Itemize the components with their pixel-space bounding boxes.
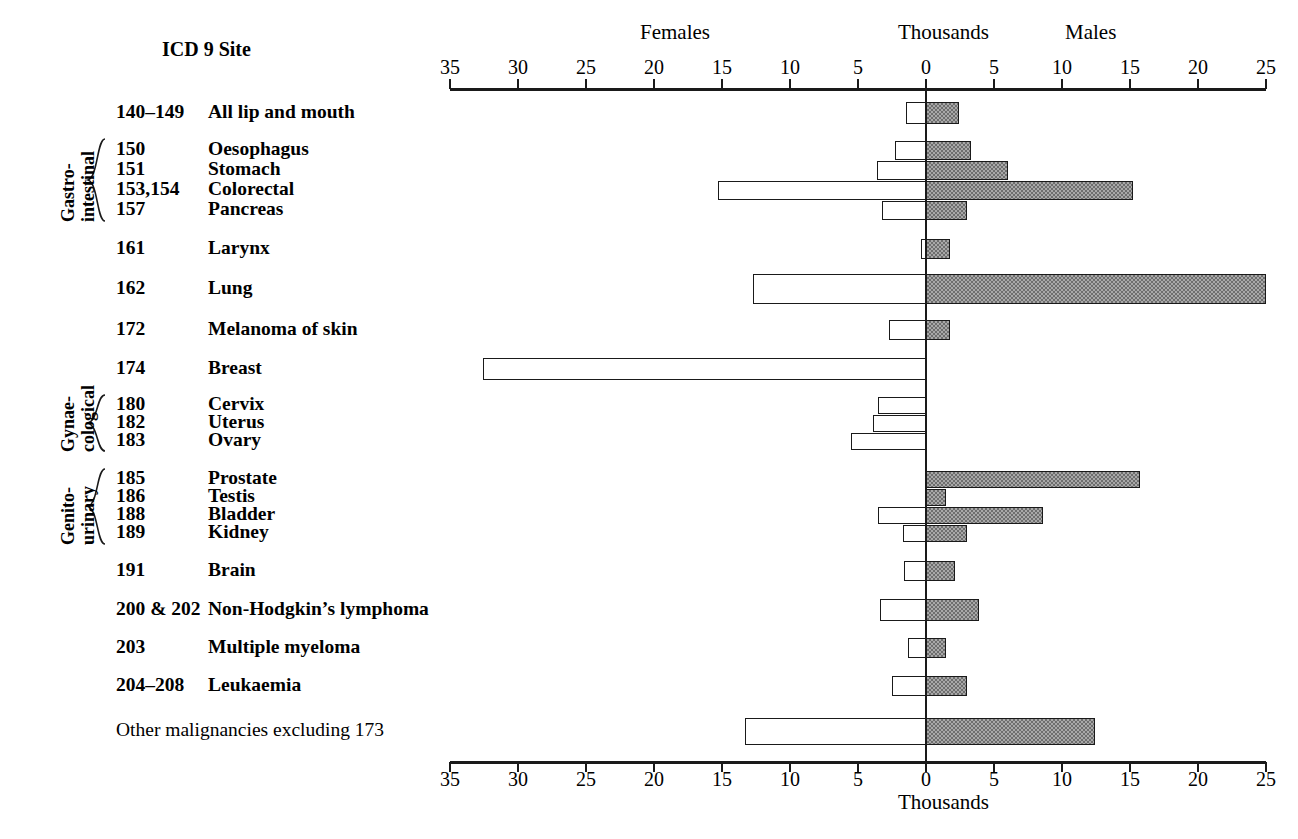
row-label: 189Kidney [116, 521, 269, 543]
axis-tick-label: 25 [1246, 768, 1286, 791]
row-icd-code: 172 [116, 318, 208, 340]
row-site-name: All lip and mouth [208, 101, 355, 122]
bar-female [745, 718, 926, 745]
bar-male [926, 102, 959, 124]
bar-male [926, 718, 1095, 745]
bar-male [926, 239, 950, 259]
bar-male [926, 471, 1140, 488]
row-icd-code: 191 [116, 559, 208, 581]
bar-female [904, 561, 926, 581]
axis-tick-label: 20 [634, 56, 674, 79]
axis-tick-label: 20 [1178, 768, 1218, 791]
row-label: 203Multiple myeloma [116, 636, 360, 658]
axis-tick-label: 20 [634, 768, 674, 791]
row-label: 162Lung [116, 277, 252, 299]
axis-tick-label: 35 [430, 768, 470, 791]
row-icd-code: 150 [116, 138, 208, 160]
row-icd-code: 174 [116, 357, 208, 379]
bar-male [926, 561, 955, 581]
row-icd-code: 183 [116, 429, 208, 451]
row-icd-code: 200 & 202 [116, 598, 208, 620]
zero-axis-line [925, 88, 927, 761]
row-site-name: Colorectal [208, 178, 294, 199]
axis-tick-label: 25 [566, 56, 606, 79]
row-label: 174Breast [116, 357, 262, 379]
bar-male [926, 507, 1043, 524]
row-site-name: Stomach [208, 158, 281, 179]
row-icd-code: 153,154 [116, 178, 208, 200]
bar-female [878, 397, 926, 414]
row-icd-code: 162 [116, 277, 208, 299]
bar-female [718, 181, 926, 200]
row-site-name: Ovary [208, 429, 261, 450]
row-label: 183Ovary [116, 429, 261, 451]
axis-tick-label: 35 [430, 56, 470, 79]
bar-male [926, 274, 1266, 304]
row-icd-code: 157 [116, 198, 208, 220]
axis-tick-label: 10 [1042, 768, 1082, 791]
bar-female [873, 415, 926, 432]
row-site-name: Larynx [208, 237, 270, 258]
axis-tick-label: 25 [566, 768, 606, 791]
axis-tick [585, 79, 587, 89]
group-caption-line1: Genito- [58, 487, 79, 545]
bar-female [483, 358, 926, 380]
axis-tick [1265, 79, 1267, 89]
axis-tick [993, 79, 995, 89]
row-site-name: Brain [208, 559, 256, 580]
axis-tick-label: 15 [1110, 56, 1150, 79]
axis-tick-label: 15 [702, 56, 742, 79]
axis-tick-label: 0 [906, 56, 946, 79]
bar-male [926, 599, 979, 621]
axis-tick-label: 10 [770, 56, 810, 79]
row-site-name: Multiple myeloma [208, 636, 360, 657]
row-label: 151Stomach [116, 158, 281, 180]
row-site-name: Leukaemia [208, 674, 301, 695]
row-icd-code: 161 [116, 237, 208, 259]
bar-male [926, 181, 1133, 200]
group-caption-line1: Gynae- [58, 396, 79, 452]
axis-tick-label: 5 [974, 56, 1014, 79]
axis-tick-label: 10 [770, 768, 810, 791]
bar-female [906, 102, 926, 124]
row-label: 150Oesophagus [116, 138, 309, 160]
row-icd-code: 203 [116, 636, 208, 658]
bar-female [882, 201, 926, 220]
axis-unit-label-bottom: Thousands [898, 790, 989, 815]
row-label: 200 & 202Non-Hodgkin’s lymphoma [116, 598, 429, 620]
bar-male [926, 638, 946, 658]
axis-tick-label: 5 [974, 768, 1014, 791]
axis-tick-label: 30 [498, 56, 538, 79]
bar-female [903, 525, 926, 542]
bar-male [926, 676, 967, 696]
row-icd-code: 140–149 [116, 101, 208, 123]
axis-tick [789, 79, 791, 89]
row-label: 161Larynx [116, 237, 270, 259]
bar-female [877, 161, 926, 180]
bar-male [926, 201, 967, 220]
bar-male [926, 320, 950, 340]
bar-male [926, 141, 971, 160]
row-label: 140–149All lip and mouth [116, 101, 355, 123]
diverging-bar-chart: FemalesThousandsMalesICD 9 SiteThousands… [0, 0, 1298, 839]
bar-female [851, 433, 926, 450]
row-site-name: Kidney [208, 521, 269, 542]
bar-female [892, 676, 926, 696]
axis-tick-label: 25 [1246, 56, 1286, 79]
legend-label-females: Females [640, 20, 710, 45]
row-label: 153,154Colorectal [116, 178, 294, 200]
row-site-name: Melanoma of skin [208, 318, 358, 339]
axis-tick [517, 79, 519, 89]
axis-tick [1061, 79, 1063, 89]
row-label: 172Melanoma of skin [116, 318, 358, 340]
axis-tick [653, 79, 655, 89]
axis-tick-label: 15 [1110, 768, 1150, 791]
bar-female [753, 274, 926, 304]
bar-male [926, 489, 946, 506]
row-site-name: Lung [208, 277, 252, 298]
axis-tick-label: 15 [702, 768, 742, 791]
column-header-icd-site: ICD 9 Site [162, 38, 251, 61]
axis-tick [857, 79, 859, 89]
legend-label-males: Males [1065, 20, 1116, 45]
row-label: 157Pancreas [116, 198, 283, 220]
